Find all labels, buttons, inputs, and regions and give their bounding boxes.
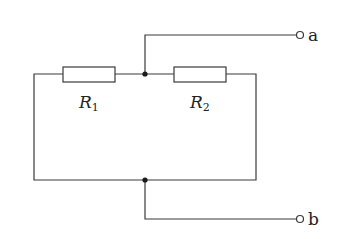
lead-b	[145, 180, 296, 219]
terminal-b-icon	[297, 216, 304, 223]
left-wire	[34, 74, 145, 180]
right-wire	[145, 74, 256, 180]
resistor-r2	[174, 67, 226, 82]
terminal-a-icon	[297, 32, 304, 39]
terminal-b-label: b	[308, 209, 319, 229]
terminal-a-label: a	[308, 25, 318, 45]
circuit-diagram: R1 R2 a b	[0, 0, 347, 239]
top-junction-dot	[142, 71, 147, 76]
bottom-junction-dot	[142, 177, 147, 182]
r1-label: R1	[78, 92, 99, 114]
resistor-r1	[63, 67, 115, 82]
r2-label: R2	[189, 92, 210, 114]
